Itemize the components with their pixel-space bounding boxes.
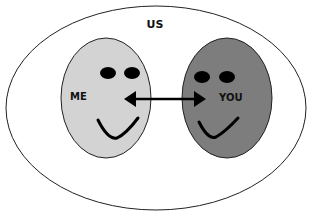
- us-label: US: [147, 18, 164, 31]
- me-label: ME: [70, 91, 87, 102]
- me-right-eye: [124, 67, 140, 79]
- me-left-eye: [100, 67, 116, 79]
- you-label: YOU: [218, 92, 243, 103]
- you-right-eye: [219, 71, 235, 83]
- you-left-eye: [194, 71, 210, 83]
- us-me-you-diagram: US ME YOU: [0, 0, 310, 213]
